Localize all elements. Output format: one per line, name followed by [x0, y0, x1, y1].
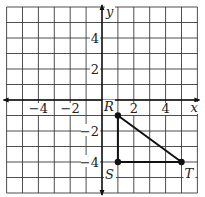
- point-label-t: T: [185, 166, 195, 181]
- y-axis-label: y: [105, 4, 114, 19]
- x-tick-label: −4: [29, 101, 48, 116]
- x-axis-label: x: [190, 100, 198, 115]
- x-tick-label: 2: [130, 101, 138, 116]
- y-tick-label: −2: [80, 124, 99, 139]
- point-r: [115, 112, 121, 118]
- axes: [3, 4, 201, 196]
- x-tick-label: 4: [161, 101, 169, 116]
- y-tick-label: 4: [91, 31, 99, 46]
- y-tick-label: −4: [80, 155, 99, 170]
- y-tick-label: 2: [91, 62, 99, 77]
- x-tick-label: −2: [61, 101, 80, 116]
- coordinate-grid: xy−4−22442−2−4 RST: [0, 0, 205, 197]
- x-axis-left-arrow-icon: [3, 98, 9, 103]
- point-s: [115, 159, 121, 165]
- point-label-s: S: [105, 167, 114, 182]
- point-label-r: R: [103, 99, 114, 114]
- point-t: [178, 159, 184, 165]
